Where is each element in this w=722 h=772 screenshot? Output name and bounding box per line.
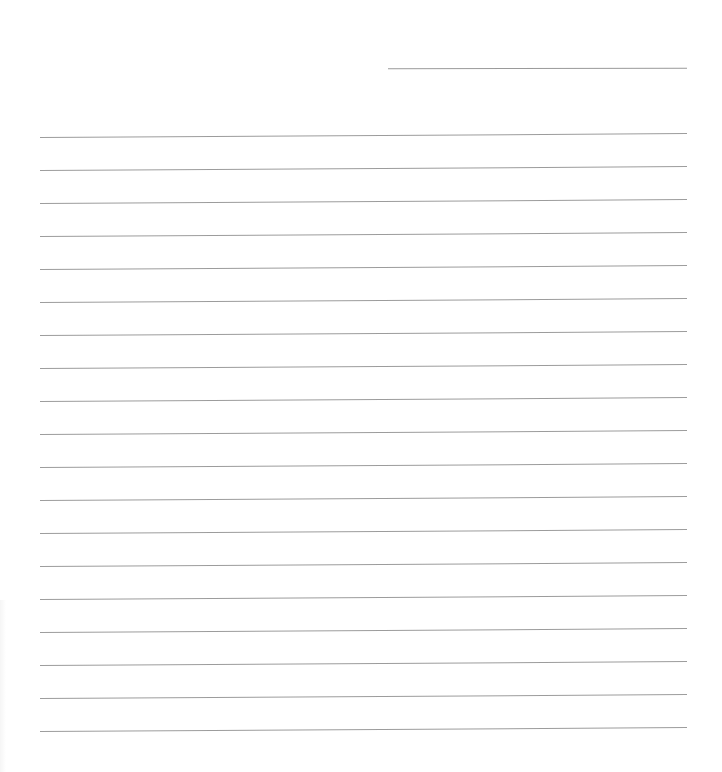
ruled-line xyxy=(40,463,687,468)
page-edge-shadow xyxy=(0,600,6,772)
ruled-line xyxy=(40,694,687,699)
ruled-line xyxy=(40,265,687,270)
ruled-line xyxy=(40,199,687,204)
ruled-line xyxy=(40,166,687,171)
ruled-line xyxy=(40,397,687,402)
ruled-line xyxy=(40,496,687,501)
ruled-line xyxy=(40,529,687,534)
ruled-line xyxy=(40,562,687,567)
ruled-line xyxy=(40,364,687,369)
lined-paper-page xyxy=(0,0,722,772)
ruled-line xyxy=(40,430,687,435)
header-name-line xyxy=(388,68,687,69)
ruled-line xyxy=(40,628,687,633)
ruled-line xyxy=(40,331,687,336)
ruled-line xyxy=(40,727,687,732)
ruled-line xyxy=(40,661,687,666)
ruled-line xyxy=(40,595,687,600)
ruled-line xyxy=(40,232,687,237)
ruled-line xyxy=(40,298,687,303)
ruled-line xyxy=(40,133,687,138)
